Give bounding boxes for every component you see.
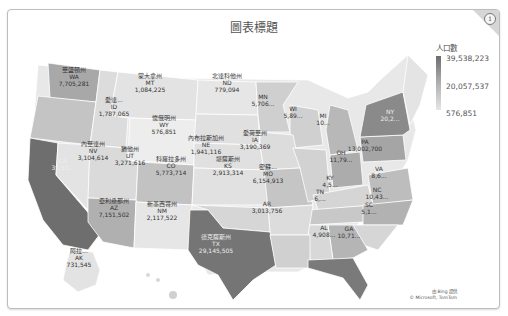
info-icon[interactable]: i xyxy=(484,13,496,25)
state-label-nm: 新墨西哥州NM2,117,522 xyxy=(147,200,178,221)
state-label-pa: PA13,002,700 xyxy=(348,138,382,152)
color-legend: 人口數 39,538,223 20,057,537 576,851 xyxy=(436,42,457,56)
state-label-id: 愛達...ID1,787,065 xyxy=(99,96,130,117)
legend-title: 人口數 xyxy=(436,42,457,53)
state-label-nc: NC10,43... xyxy=(366,186,389,200)
state-label-ne: 內布拉斯加州NE1,941,116 xyxy=(188,134,224,155)
state-or[interactable] xyxy=(30,96,96,145)
state-fl[interactable] xyxy=(308,258,368,300)
state-label-mi: MI10... xyxy=(316,112,329,126)
state-label-sc: SC5,1... xyxy=(361,201,376,215)
state-label-mn: MN5,706... xyxy=(252,93,275,107)
state-label-ar: AR3,013,756 xyxy=(252,200,283,214)
state-label-ia: 愛荷華州IA3,190,369 xyxy=(240,129,271,150)
state-label-az: 亞利桑那州AZ7,151,502 xyxy=(99,197,130,218)
state-label-nv: 內華達州NV3,104,614 xyxy=(78,140,109,161)
state-label-nd: 北達科他州ND779,094 xyxy=(212,72,242,93)
state-label-ut: 猶他州UT3,271,616 xyxy=(115,145,146,166)
legend-max: 39,538,223 xyxy=(446,54,489,63)
state-label-mo: 密蘇...MO6,154,913 xyxy=(253,163,284,184)
state-la-ms[interactable] xyxy=(270,235,310,268)
chart-title: 圖表標題 xyxy=(8,18,499,35)
legend-mid: 20,057,537 xyxy=(446,82,489,91)
state-label-wi: WI5,89... xyxy=(283,105,302,119)
state-label-tx: 德克薩斯州TX29,145,505 xyxy=(199,233,233,254)
state-label-wy: 懷俄明州WY576,851 xyxy=(152,114,177,135)
state-label-tn: TN6,... xyxy=(314,188,325,202)
legend-min: 576,851 xyxy=(446,109,477,118)
state-label-mt: 蒙大拿州MT1,084,225 xyxy=(135,72,166,93)
map-chart-card: 圖表標題 i 人口數 39,538,223 20,057,537 576,851… xyxy=(7,9,500,309)
state-label-ky: KY4,5... xyxy=(322,174,337,188)
state-hi[interactable] xyxy=(146,273,150,277)
state-label-ak: 阿拉...AK731,545 xyxy=(67,247,92,268)
state-label-co: 科羅拉多州CO5,773,714 xyxy=(156,155,187,176)
state-label-va: VA8,6... xyxy=(371,165,386,179)
state-label-ga: GA10,71... xyxy=(338,225,361,239)
state-label-al: AL4,908... xyxy=(313,224,336,238)
state-label-oh: OH11,79... xyxy=(330,149,353,163)
map-credits: 由 Bing 提供 © Microsoft, TomTom xyxy=(409,289,457,300)
state-label-ks: 堪薩斯州KS2,913,314 xyxy=(213,155,244,176)
state-label-ny: NY20,2... xyxy=(380,108,399,122)
state-label-ca: CA39,53... xyxy=(52,157,75,171)
state-label-wa: 華盛頓州WA7,705,281 xyxy=(59,66,90,87)
legend-gradient-bar xyxy=(436,56,441,110)
